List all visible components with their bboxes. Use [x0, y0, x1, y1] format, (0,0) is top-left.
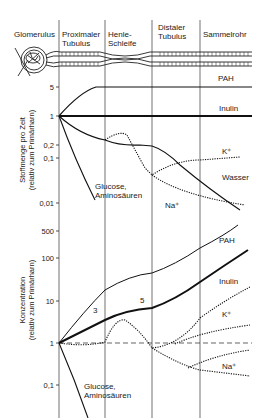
bottom-k2-line [175, 325, 250, 344]
top-label-glucose-2: Aminosäuren [95, 191, 142, 200]
bottom-tick-100: 100 [41, 254, 54, 263]
bottom-inulin-line [59, 250, 248, 343]
bottom-ylabel-1: Konzentration [18, 277, 27, 323]
segment-proximal-1: Proximaler [62, 30, 101, 39]
top-k-line [105, 133, 240, 175]
top-label-inulin: Inulin [219, 104, 238, 113]
glomerulus-icon [15, 47, 47, 76]
segment-distal-2: Tubulus [158, 32, 186, 41]
bottom-label-pah: PAH [219, 236, 235, 245]
top-tick-0-1: 0,1 [44, 154, 54, 163]
top-label-na: Na⁺ [165, 201, 179, 210]
segment-henle-2: Schleife [108, 39, 137, 48]
segment-glomerulus: Glomerulus [14, 30, 55, 39]
bottom-label-glucose-2: Aminosäuren [84, 391, 131, 400]
top-tick-0-2: 0,2 [44, 141, 54, 150]
segment-distal-1: Distaler [158, 23, 185, 32]
top-ylabel-2: (relativ zum Primärharn) [27, 109, 36, 190]
bottom-label-inulin: Inulin [219, 277, 238, 286]
bottom-mark-5: 5 [140, 296, 145, 305]
top-label-wasser: Wasser [222, 173, 249, 182]
top-wasser-line [59, 116, 240, 210]
top-label-pah: PAH [218, 74, 234, 83]
tubule-icon [46, 51, 252, 66]
bottom-label-glucose-1: Glucose, [84, 382, 116, 391]
bottom-tick-0-1: 0,1 [44, 381, 54, 390]
top-tick-0-01: 0,01 [39, 199, 54, 208]
top-axis-ticks [56, 87, 59, 203]
bottom-mark-3: 3 [93, 306, 98, 315]
bottom-label-k: K⁺ [222, 310, 231, 319]
bottom-label-na: Na⁺ [222, 362, 236, 371]
top-label-k: K⁺ [222, 147, 231, 156]
bottom-ylabel-2: (relativ zum Primärharn) [27, 259, 36, 340]
top-tick-5: 5 [50, 83, 54, 92]
bottom-glucose-line [59, 343, 88, 418]
top-tick-1: 1 [50, 112, 54, 121]
bottom-tick-10: 10 [46, 297, 54, 306]
bottom-axis-ticks [56, 231, 59, 385]
bottom-tick-1: 1 [50, 339, 54, 348]
tubule-hatch [62, 52, 248, 66]
nephron-diagram: Glomerulus Proximaler Tubulus Henle- Sch… [0, 0, 267, 418]
top-label-glucose-1: Glucose, [95, 182, 127, 191]
segment-henle-1: Henle- [108, 30, 132, 39]
segment-proximal-2: Tubulus [62, 39, 90, 48]
top-ylabel-1: Stoffmenge pro Zeit [18, 116, 27, 183]
top-glucose-line [59, 116, 95, 200]
bottom-tick-500: 500 [41, 227, 54, 236]
section-dividers [59, 20, 200, 418]
bottom-na2-line [188, 350, 250, 368]
segment-sammelrohr: Sammelrohr [203, 30, 247, 39]
bottom-pah-line [59, 225, 238, 343]
